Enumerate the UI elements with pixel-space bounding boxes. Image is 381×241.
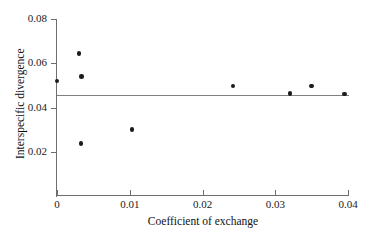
y-axis-tick-label: 0.04 <box>28 102 47 113</box>
data-point <box>342 92 347 97</box>
x-axis-tick-label: 0.01 <box>105 199 155 210</box>
x-axis-label: Coefficient of exchange <box>57 216 349 228</box>
y-axis-tick-label: 0.08 <box>28 13 47 24</box>
x-axis-tick <box>348 190 349 196</box>
data-point <box>79 141 84 146</box>
data-point <box>309 84 314 89</box>
x-axis-tick-label: 0.04 <box>323 199 373 210</box>
y-axis-tick-label: 0.06 <box>28 57 47 68</box>
data-point <box>130 127 135 132</box>
data-point <box>79 74 84 79</box>
data-point <box>288 91 293 96</box>
scatter-plot-figure: 0.020.040.060.08 00.010.020.030.04 Inter… <box>0 0 381 241</box>
regression-line <box>57 95 349 96</box>
data-point <box>231 84 236 89</box>
data-point <box>77 51 82 56</box>
x-axis-tick-label: 0.03 <box>250 199 300 210</box>
x-axis-tick-label: 0 <box>32 199 82 210</box>
x-axis-tick-label: 0.02 <box>178 199 228 210</box>
data-point <box>55 79 60 84</box>
y-axis-tick-label: 0.02 <box>28 146 47 157</box>
y-axis-label: Interspecific divergence <box>15 9 27 199</box>
plot-area <box>57 19 348 196</box>
